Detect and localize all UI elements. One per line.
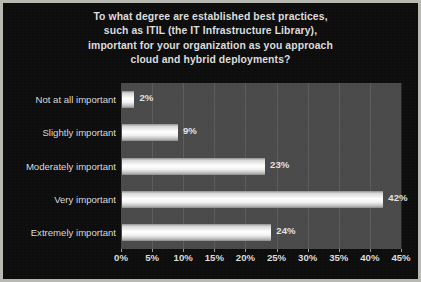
category-label: Slightly important [42,127,116,138]
chart-title-line-2: such as ITIL (the IT Infrastructure Libr… [3,24,418,38]
bar [122,224,271,241]
category-label: Moderately important [26,161,116,172]
x-tick-label: 35% [329,252,348,263]
x-tick-label: 5% [145,252,159,263]
bar-value-label: 24% [276,225,295,236]
bar-value-label: 9% [183,125,197,136]
bar-row: 2% [121,91,401,108]
bar-row: 24% [121,224,401,241]
chart-title-line-4: cloud and hybrid deployments? [3,53,418,67]
category-label: Very important [54,194,116,205]
bar-value-label: 23% [270,159,289,170]
category-label: Extremely important [31,227,116,238]
x-tick-label: 0% [114,252,128,263]
plot-area: 2%9%23%42%24% [121,83,401,249]
category-label: Not at all important [35,94,116,105]
x-tick-label: 40% [360,252,379,263]
x-tick-label: 45% [391,252,410,263]
category-axis-labels: Not at all importantSlightly importantMo… [3,83,116,249]
bar [122,191,383,208]
bar [122,124,178,141]
x-tick-label: 10% [174,252,193,263]
bar [122,91,134,108]
chart-title-line-3: important for your organization as you a… [3,39,418,53]
chart-container: To what degree are established best prac… [0,0,421,282]
x-tick-label: 15% [205,252,224,263]
x-tick-label: 25% [267,252,286,263]
bar-row: 9% [121,124,401,141]
bar-value-label: 2% [139,92,153,103]
gridline [401,83,402,249]
x-tick-label: 20% [236,252,255,263]
bar [122,158,265,175]
bar-value-label: 42% [388,192,407,203]
x-tick-label: 30% [298,252,317,263]
chart-title-line-1: To what degree are established best prac… [3,10,418,24]
bar-row: 42% [121,191,401,208]
bar-row: 23% [121,158,401,175]
x-axis-tick-labels: 0%5%10%15%20%25%30%35%40%45% [121,252,401,268]
chart-title: To what degree are established best prac… [3,10,418,68]
